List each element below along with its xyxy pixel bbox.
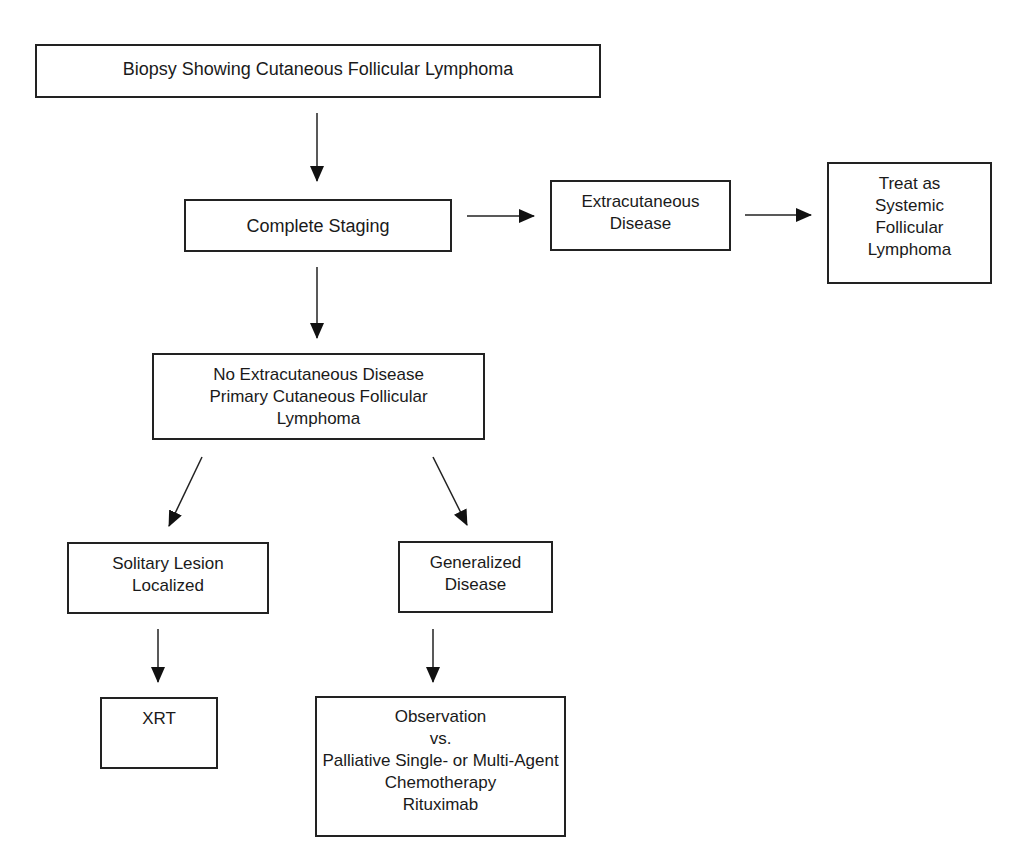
node-xrt: XRT (100, 697, 218, 769)
node-generalized-disease: Generalized Disease (398, 541, 553, 613)
node-primary-cutaneous: No Extracutaneous Disease Primary Cutane… (152, 353, 485, 440)
node-extracutaneous-line-1: Extracutaneous (581, 191, 699, 213)
node-treatment-line-4: Chemotherapy (385, 772, 497, 794)
node-complete-staging: Complete Staging (184, 199, 452, 252)
node-extracutaneous-disease: Extracutaneous Disease (550, 180, 731, 251)
node-complete-staging-label: Complete Staging (246, 215, 389, 237)
arrow-primary-to-generalized (433, 457, 467, 525)
node-biopsy-label: Biopsy Showing Cutaneous Follicular Lymp… (123, 58, 514, 80)
node-systemic-line-1: Treat as (879, 173, 941, 195)
node-solitary-line-1: Solitary Lesion (112, 553, 224, 575)
node-generalized-line-1: Generalized (430, 552, 522, 574)
node-primary-line-2: Primary Cutaneous Follicular (209, 386, 427, 408)
node-treatment-line-1: Observation (395, 706, 487, 728)
node-generalized-line-2: Disease (445, 574, 506, 596)
node-treatment-options: Observation vs. Palliative Single- or Mu… (315, 696, 566, 837)
node-systemic-line-3: Follicular (875, 217, 943, 239)
node-extracutaneous-line-2: Disease (610, 213, 671, 235)
node-biopsy: Biopsy Showing Cutaneous Follicular Lymp… (35, 44, 601, 98)
node-solitary-line-2: Localized (132, 575, 204, 597)
node-treatment-line-5: Rituximab (403, 794, 479, 816)
node-systemic-line-2: Systemic (875, 195, 944, 217)
node-primary-line-1: No Extracutaneous Disease (213, 364, 424, 386)
node-treatment-line-2: vs. (430, 728, 452, 750)
node-treatment-line-3: Palliative Single- or Multi-Agent (322, 750, 558, 772)
node-primary-line-3: Lymphoma (277, 408, 360, 430)
node-systemic-line-4: Lymphoma (868, 239, 951, 261)
node-solitary-lesion: Solitary Lesion Localized (67, 542, 269, 614)
node-xrt-label: XRT (142, 708, 176, 730)
arrow-primary-to-solitary (169, 457, 202, 526)
node-treat-systemic: Treat as Systemic Follicular Lymphoma (827, 162, 992, 284)
